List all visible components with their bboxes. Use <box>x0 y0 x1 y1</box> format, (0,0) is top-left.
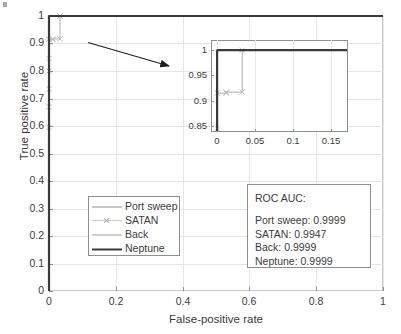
roc-figure: 00.10.20.30.40.50.60.70.80.91 00.20.40.6… <box>0 0 401 334</box>
legend-label-satan: SATAN <box>125 213 158 228</box>
legend-label-back: Back <box>125 227 148 242</box>
roc-curves-inset <box>0 0 401 334</box>
legend-label-port-sweep: Port sweep <box>125 199 178 214</box>
legend-item-satan: SATAN <box>89 213 181 228</box>
legend-sample-back <box>92 234 122 236</box>
legend-sample-neptune <box>92 248 122 251</box>
auc-value-satan: SATAN: 0.9947 <box>255 228 370 242</box>
legend-item-neptune: Neptune <box>89 241 181 256</box>
legend-sample-satan <box>92 217 122 224</box>
legend: Port sweep SATAN Back Neptune <box>88 196 180 256</box>
auc-value-port-sweep: Port sweep: 0.9999 <box>255 214 370 228</box>
legend-label-neptune: Neptune <box>125 241 165 256</box>
legend-item-back: Back <box>89 227 181 242</box>
auc-value-back: Back: 0.9999 <box>255 241 370 255</box>
marker-x <box>214 149 219 154</box>
marker-x <box>214 181 219 186</box>
legend-sample-port-sweep <box>92 206 122 208</box>
marker-x <box>214 252 219 257</box>
auc-value-neptune: Neptune: 0.9999 <box>255 255 370 269</box>
legend-item-port-sweep: Port sweep <box>89 199 181 214</box>
marker-x <box>214 214 219 219</box>
roc-auc-box: ROC AUC: Port sweep: 0.9999 SATAN: 0.994… <box>247 184 371 268</box>
roc-auc-title: ROC AUC: <box>255 191 370 205</box>
